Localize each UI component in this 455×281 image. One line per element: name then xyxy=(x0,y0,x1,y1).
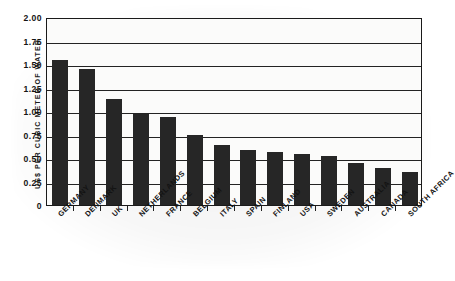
y-tick-label: 1.75 xyxy=(23,37,42,47)
y-tick-label: 1.00 xyxy=(23,107,42,117)
y-tick-label: 1.25 xyxy=(23,84,42,94)
x-axis-tick-labels: GERMANYDENMARKUKNETHERLANDSFRANCEBELGIUM… xyxy=(46,206,422,281)
y-tick-label: 2.00 xyxy=(23,13,42,23)
bar xyxy=(133,114,149,205)
y-tick-label: 0.50 xyxy=(23,154,42,164)
bar xyxy=(240,150,256,205)
y-tick-label: 0 xyxy=(37,201,42,211)
x-tick-label: UK xyxy=(110,204,125,219)
y-tick-label: 0.75 xyxy=(23,131,42,141)
y-tick-label: 1.50 xyxy=(23,60,42,70)
bars-group xyxy=(47,19,421,205)
bar xyxy=(52,60,68,205)
bar xyxy=(267,152,283,205)
plot-area xyxy=(46,18,422,206)
bar xyxy=(321,156,337,205)
y-tick-label: 0.25 xyxy=(23,178,42,188)
y-axis-tick-labels: 2.001.751.501.251.000.750.500.250 xyxy=(12,18,42,206)
